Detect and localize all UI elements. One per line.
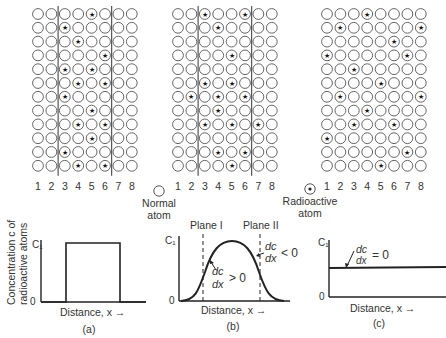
normal-atom-icon bbox=[199, 91, 210, 102]
radioactive-star-icon: ★ bbox=[242, 93, 248, 100]
normal-atom-icon bbox=[226, 36, 237, 47]
normal-atom-icon bbox=[348, 133, 359, 144]
normal-atom-icon bbox=[173, 50, 184, 61]
normal-atom-icon bbox=[213, 133, 224, 144]
radioactive-star-icon: ★ bbox=[364, 11, 370, 18]
normal-atom-icon bbox=[100, 133, 111, 144]
normal-atom-icon bbox=[322, 9, 333, 20]
normal-atom-icon bbox=[126, 78, 137, 89]
grad-neg-dc: dc bbox=[265, 240, 277, 252]
column-label: 7 bbox=[255, 180, 261, 192]
grad-pos-dc: dc bbox=[212, 265, 224, 277]
normal-atom-icon bbox=[266, 91, 277, 102]
normal-atom-icon bbox=[348, 160, 359, 171]
normal-atom-icon bbox=[100, 64, 111, 75]
normal-atom-icon bbox=[335, 36, 346, 47]
normal-atom-icon bbox=[226, 133, 237, 144]
legend-normal-atom: Normal atom bbox=[142, 186, 176, 221]
normal-atom-icon bbox=[415, 160, 426, 171]
plot-c-zero-label: 0 bbox=[319, 291, 325, 302]
radioactive-star-icon: ★ bbox=[75, 162, 81, 169]
radioactive-star-icon: ★ bbox=[102, 162, 108, 169]
normal-atom-icon bbox=[266, 133, 277, 144]
normal-atom-icon bbox=[335, 105, 346, 116]
normal-atom-icon bbox=[253, 22, 264, 33]
normal-atom-icon bbox=[240, 133, 251, 144]
radioactive-star-icon: ★ bbox=[75, 80, 81, 87]
normal-atom-icon bbox=[266, 119, 277, 130]
y-axis-title: Concentration c of radioactive atoms bbox=[5, 220, 29, 305]
plot-b-x-label: Distance, x → bbox=[201, 304, 266, 316]
normal-atom-icon bbox=[113, 78, 124, 89]
normal-atom-icon bbox=[253, 160, 264, 171]
radioactive-star-icon: ★ bbox=[75, 121, 81, 128]
normal-atom-icon bbox=[415, 119, 426, 130]
normal-atom-icon bbox=[33, 36, 44, 47]
normal-atom-icon bbox=[389, 91, 400, 102]
plot-b-caption: (b) bbox=[227, 320, 240, 332]
normal-atom-icon bbox=[389, 105, 400, 116]
column-label: 4 bbox=[75, 180, 81, 192]
normal-atom-icon bbox=[186, 50, 197, 61]
normal-atom-icon bbox=[226, 105, 237, 116]
radioactive-star-icon: ★ bbox=[62, 93, 68, 100]
normal-atom-icon bbox=[213, 119, 224, 130]
column-label: 2 bbox=[337, 180, 343, 192]
normal-atom-icon bbox=[348, 147, 359, 158]
normal-atom-icon bbox=[199, 64, 210, 75]
radioactive-star-icon: ★ bbox=[62, 24, 68, 31]
plane-1-label: Plane I bbox=[190, 219, 223, 231]
normal-atom-icon bbox=[33, 160, 44, 171]
normal-atom-icon bbox=[100, 147, 111, 158]
legend-normal-line2: atom bbox=[147, 209, 171, 221]
plot-a-x-label: Distance, x → bbox=[60, 306, 125, 318]
normal-atom-icon bbox=[415, 78, 426, 89]
normal-atom-icon bbox=[186, 119, 197, 130]
normal-atom-icon bbox=[375, 105, 386, 116]
normal-atom-icon bbox=[266, 78, 277, 89]
radioactive-star-icon: ★ bbox=[324, 52, 330, 59]
normal-atom-icon bbox=[46, 119, 57, 130]
plot-c-x-label: Distance, x → bbox=[350, 302, 415, 314]
radioactive-star-icon: ★ bbox=[89, 135, 95, 142]
radioactive-star-icon: ★ bbox=[62, 149, 68, 156]
normal-atom-icon bbox=[362, 147, 373, 158]
normal-atom-icon bbox=[33, 119, 44, 130]
normal-atom-icon bbox=[375, 36, 386, 47]
normal-atom-icon bbox=[113, 64, 124, 75]
column-label: 1 bbox=[324, 180, 330, 192]
diffusion-figure: ★★★★★★★★★★★★★★★★12345678★★★★★★★★★★★★★★★★… bbox=[0, 0, 446, 338]
normal-atom-icon bbox=[126, 160, 137, 171]
grad-zero-arrow bbox=[347, 251, 354, 266]
normal-atom-icon bbox=[253, 78, 264, 89]
normal-atom-icon bbox=[73, 91, 84, 102]
radioactive-star-icon: ★ bbox=[324, 135, 330, 142]
normal-atom-icon bbox=[375, 147, 386, 158]
normal-atom-icon bbox=[86, 147, 97, 158]
grad-neg-dx: dx bbox=[265, 252, 277, 264]
normal-atom-icon bbox=[126, 91, 137, 102]
normal-atom-icon bbox=[226, 91, 237, 102]
plot-c: C₁ 0 dc dx = 0 Distance, x → (c) bbox=[318, 237, 446, 329]
normal-atom-icon bbox=[173, 91, 184, 102]
normal-atom-icon bbox=[348, 78, 359, 89]
normal-atom-icon bbox=[154, 186, 164, 196]
normal-atom-icon bbox=[33, 78, 44, 89]
normal-atom-icon bbox=[335, 9, 346, 20]
normal-atom-icon bbox=[389, 133, 400, 144]
normal-atom-icon bbox=[266, 160, 277, 171]
radioactive-star-icon: ★ bbox=[229, 52, 235, 59]
normal-atom-icon bbox=[113, 147, 124, 158]
normal-atom-icon bbox=[266, 64, 277, 75]
normal-atom-icon bbox=[226, 64, 237, 75]
normal-atom-icon bbox=[226, 147, 237, 158]
normal-atom-icon bbox=[266, 105, 277, 116]
radioactive-star-icon: ★ bbox=[418, 93, 424, 100]
radioactive-star-icon: ★ bbox=[202, 80, 208, 87]
radioactive-star-icon: ★ bbox=[391, 38, 397, 45]
normal-atom-icon bbox=[362, 78, 373, 89]
radioactive-star-icon: ★ bbox=[62, 66, 68, 73]
normal-atom-icon bbox=[113, 22, 124, 33]
normal-atom-icon bbox=[199, 160, 210, 171]
normal-atom-icon bbox=[186, 147, 197, 158]
